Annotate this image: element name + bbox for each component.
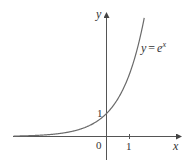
x-tick-label-1: 1 xyxy=(126,140,132,152)
x-axis-label: x xyxy=(172,139,179,153)
exp-chart: y x 0 1 1 y=ex xyxy=(0,0,193,167)
function-label: y=ex xyxy=(140,40,166,55)
x-tick-label-0: 0 xyxy=(96,139,102,151)
y-axis-label: y xyxy=(95,7,102,21)
y-tick-label-1: 1 xyxy=(97,107,103,119)
exp-curve xyxy=(14,18,145,136)
